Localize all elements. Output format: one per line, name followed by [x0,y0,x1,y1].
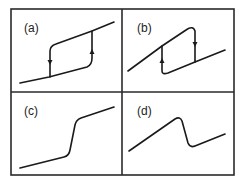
arrow-down-icon [48,60,53,65]
panel-d-label: (d) [137,104,152,118]
panel-d: (d) [129,104,225,151]
arrow-up-icon [160,58,165,63]
panel-b-label: (b) [137,21,152,35]
panel-c-label: (c) [24,104,38,118]
figure-canvas: (a) (b) (c) (d) [0,0,240,183]
panel-b: (b) [128,21,225,74]
panel-a-label: (a) [24,21,39,35]
panel-a-lower-branch [20,31,92,83]
arrow-down-icon [193,42,198,47]
panel-a: (a) [20,21,114,83]
panel-c: (c) [20,104,114,168]
panel-d-curve [129,118,225,151]
panel-b-lower-branch [162,46,195,74]
arrow-up-icon [90,49,95,54]
